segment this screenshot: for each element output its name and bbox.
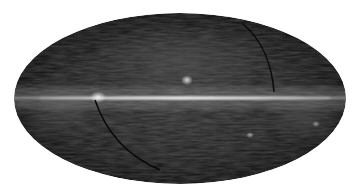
spot-far-right xyxy=(312,121,320,127)
all-sky-map xyxy=(0,0,361,193)
spot-lower-right xyxy=(246,132,254,138)
bright-blob xyxy=(181,75,193,85)
bright-patch-left xyxy=(90,91,106,103)
galactic-plane-core xyxy=(40,97,330,100)
